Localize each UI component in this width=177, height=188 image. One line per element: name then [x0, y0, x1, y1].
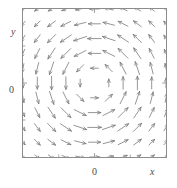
- field-arrow-shaft: [120, 62, 126, 74]
- field-arrow-shaft: [119, 9, 127, 11]
- field-arrow-head: [67, 156, 69, 157]
- field-arrow-head: [23, 25, 24, 27]
- field-arrow-shaft: [48, 48, 55, 59]
- field-arrow-shaft: [48, 155, 55, 157]
- field-arrow-shaft: [35, 49, 40, 59]
- field-arrow-head: [23, 40, 24, 42]
- field-arrow-head: [24, 99, 25, 102]
- field-arrow-shaft: [118, 21, 128, 26]
- field-arrow-head: [164, 64, 165, 67]
- plot-frame: [22, 8, 167, 158]
- field-arrow-shaft: [48, 35, 56, 43]
- field-arrow-head: [23, 10, 24, 11]
- field-arrow-shaft: [48, 123, 56, 131]
- field-arrow-head: [23, 55, 24, 57]
- field-arrow-head: [165, 109, 166, 111]
- field-arrow-shaft: [103, 110, 115, 116]
- field-arrow-head: [164, 9, 165, 10]
- field-arrow-shaft: [133, 35, 141, 43]
- field-arrow-head: [38, 156, 40, 157]
- field-arrow-head: [119, 9, 121, 10]
- field-arrow-head: [23, 70, 24, 73]
- field-arrow-shaft: [61, 140, 71, 145]
- x-axis-tick-label-zero: 0: [92, 167, 97, 177]
- field-arrow-shaft: [118, 108, 128, 118]
- field-arrow-head: [35, 70, 36, 73]
- field-arrow-shaft: [61, 49, 71, 59]
- field-arrow-head: [75, 25, 78, 26]
- field-arrow-head: [76, 10, 79, 11]
- field-arrow-head: [165, 124, 166, 126]
- field-arrow-shaft: [35, 108, 40, 118]
- field-arrow-head: [82, 144, 85, 145]
- field-arrow-shaft: [134, 9, 141, 11]
- vector-field-figure: y 0 0 x: [0, 0, 177, 188]
- field-arrow-shaft: [61, 108, 71, 118]
- field-arrow-head: [165, 140, 166, 142]
- field-arrow-shaft: [103, 50, 115, 56]
- field-arrow-shaft: [61, 21, 71, 26]
- vector-field-plot: [23, 9, 166, 157]
- x-axis-label: x: [150, 167, 154, 177]
- field-arrow-shaft: [134, 48, 141, 59]
- field-arrow-shaft: [118, 35, 129, 42]
- field-arrow-head: [24, 156, 25, 157]
- field-arrow-shaft: [62, 155, 70, 157]
- field-arrow-shaft: [118, 49, 128, 59]
- field-arrow-head: [153, 92, 154, 95]
- field-arrow-shaft: [164, 124, 166, 131]
- field-arrow-shaft: [149, 108, 154, 118]
- field-arrow-shaft: [118, 140, 128, 145]
- field-arrow-head: [104, 9, 107, 10]
- field-arrow-shaft: [74, 110, 86, 116]
- field-arrow-shaft: [63, 62, 69, 74]
- field-arrow-head: [165, 93, 166, 96]
- field-arrow-shaft: [63, 92, 69, 104]
- field-arrow-shaft: [149, 49, 154, 59]
- field-arrow-head: [165, 155, 166, 156]
- field-arrow-shaft: [61, 124, 72, 131]
- field-arrow-shaft: [120, 92, 126, 104]
- field-arrow-head: [150, 63, 151, 66]
- field-arrow-head: [111, 140, 114, 141]
- field-arrow-shaft: [133, 123, 141, 131]
- y-axis-label: y: [11, 27, 15, 37]
- field-arrow-head: [149, 9, 151, 10]
- field-arrow-shaft: [118, 124, 129, 131]
- field-arrow-shaft: [61, 35, 72, 42]
- field-arrow-head: [134, 9, 136, 10]
- field-arrow-shaft: [23, 49, 25, 57]
- field-arrow-shaft: [23, 35, 25, 42]
- field-arrow-shaft: [74, 50, 86, 56]
- field-arrow-head: [39, 100, 40, 103]
- field-arrow-head: [110, 155, 113, 156]
- field-arrow-shaft: [134, 107, 141, 118]
- field-arrow-shaft: [164, 109, 166, 117]
- field-arrow-head: [103, 22, 106, 23]
- y-axis-tick-label-zero: 0: [9, 85, 14, 95]
- field-arrow-head: [82, 156, 85, 157]
- field-arrow-shaft: [48, 107, 55, 118]
- field-arrow-head: [53, 156, 55, 157]
